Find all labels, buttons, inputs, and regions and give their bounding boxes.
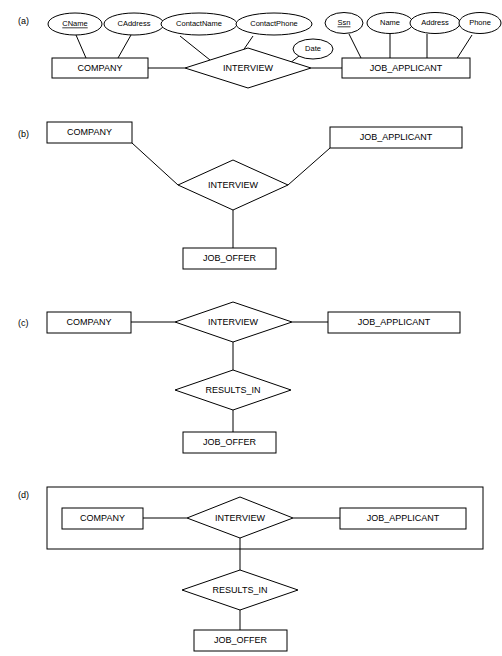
entity-company-c-label: COMPANY: [67, 317, 112, 327]
er-diagram-canvas: (a) INTERVIEW COMPANY JOB_APPLICANT: [0, 0, 502, 656]
attribute-address-label: Address: [421, 18, 449, 27]
edge-caddress-company: [118, 35, 131, 58]
entity-job-applicant-b-label: JOB_APPLICANT: [360, 132, 433, 142]
part-c-group: (c) INTERVIEW RESULTS_IN COMPANY JOB_APP…: [18, 302, 460, 453]
attribute-caddress-label: CAddress: [118, 19, 151, 28]
relationship-interview-d-label: INTERVIEW: [215, 513, 265, 523]
entity-job-offer-c-label: JOB_OFFER: [203, 437, 257, 447]
relationship-interview-c-label: INTERVIEW: [208, 317, 258, 327]
attribute-phone-label: Phone: [469, 18, 491, 27]
entity-job-applicant-a-label: JOB_APPLICANT: [370, 63, 443, 73]
edge-ssn-jobapplicant: [349, 34, 362, 60]
entity-job-applicant-d-label: JOB_APPLICANT: [367, 513, 440, 523]
edge-contactname-interview: [180, 36, 210, 60]
entity-job-offer-d-label: JOB_OFFER: [214, 635, 268, 645]
attribute-contactphone-label: ContactPhone: [250, 19, 298, 28]
entity-job-applicant-c-label: JOB_APPLICANT: [358, 317, 431, 327]
entity-company-a-label: COMPANY: [78, 63, 123, 73]
part-c-label: (c): [18, 318, 29, 328]
part-a-label: (a): [18, 16, 29, 26]
part-b-label: (b): [18, 129, 29, 139]
entity-company-b-label: COMPANY: [67, 127, 112, 137]
er-diagram-figure: (a) INTERVIEW COMPANY JOB_APPLICANT: [0, 0, 502, 656]
part-d-group: (d) INTERVIEW RESULTS_IN COMPANY JOB_APP…: [18, 487, 483, 651]
entity-company-d-label: COMPANY: [80, 513, 125, 523]
attribute-ssn-label: Ssn: [338, 18, 351, 27]
edge-phone-jobapplicant: [456, 35, 472, 60]
relationship-interview-a-label: INTERVIEW: [223, 63, 273, 73]
edge-cname-company: [76, 35, 86, 58]
edge-company-interview-b: [132, 143, 178, 185]
attribute-cname-label: CName: [62, 19, 87, 28]
entity-job-offer-b-label: JOB_OFFER: [203, 253, 257, 263]
attribute-contactname-label: ContactName: [176, 19, 222, 28]
relationship-results-in-d-label: RESULTS_IN: [213, 585, 268, 595]
part-a-group: (a) INTERVIEW COMPANY JOB_APPLICANT: [18, 13, 501, 89]
relationship-results-in-c-label: RESULTS_IN: [206, 385, 261, 395]
attribute-date-label: Date: [305, 44, 321, 53]
part-b-group: (b) INTERVIEW COMPANY JOB_APPLICANT JOB_…: [18, 122, 462, 269]
part-d-label: (d): [18, 490, 29, 500]
edge-jobapplicant-interview-b: [288, 148, 330, 185]
attribute-name-label: Name: [380, 18, 400, 27]
relationship-interview-b-label: INTERVIEW: [208, 180, 258, 190]
